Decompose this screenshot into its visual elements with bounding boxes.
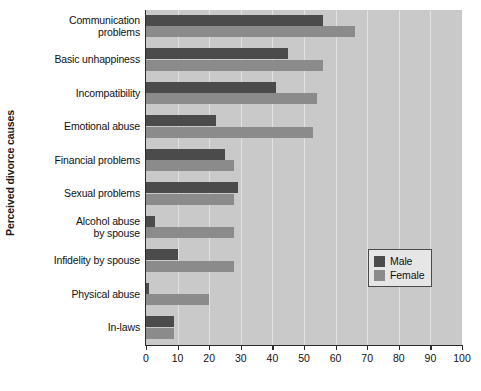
legend-item-male: Male: [374, 254, 424, 268]
x-axis-tick-label: 50: [289, 352, 319, 364]
category-label: Basic unhappiness: [20, 53, 140, 65]
bar-female: [146, 26, 355, 37]
bar-female: [146, 328, 174, 339]
bar-male: [146, 15, 323, 26]
gridline: [430, 10, 431, 345]
x-axis-tick: [209, 346, 210, 350]
x-axis-tick: [399, 346, 400, 350]
category-label: Incompatibility: [20, 87, 140, 99]
x-axis-tick: [146, 346, 147, 350]
plot-area: [146, 10, 462, 345]
x-axis-tick-label: 10: [163, 352, 193, 364]
bar-female: [146, 261, 234, 272]
gridline: [367, 10, 368, 345]
x-axis-tick-label: 0: [131, 352, 161, 364]
bar-female: [146, 227, 234, 238]
x-axis-tick-label: 40: [257, 352, 287, 364]
x-axis-tick-label: 60: [321, 352, 351, 364]
category-label: Physical abuse: [20, 288, 140, 300]
bar-male: [146, 182, 238, 193]
bar-female: [146, 93, 317, 104]
x-axis-tick: [336, 346, 337, 350]
bar-male: [146, 149, 225, 160]
x-axis-tick-label: 90: [415, 352, 445, 364]
category-label: In-laws: [20, 321, 140, 333]
x-axis-tick-label: 70: [352, 352, 382, 364]
bar-male: [146, 82, 276, 93]
category-label-list: CommunicationproblemsBasic unhappinessIn…: [20, 10, 144, 345]
category-label: Alcohol abuseby spouse: [20, 215, 140, 239]
x-axis-tick: [272, 346, 273, 350]
category-label: Financial problems: [20, 154, 140, 166]
x-axis-tick: [304, 346, 305, 350]
category-label: Emotional abuse: [20, 120, 140, 132]
bar-female: [146, 160, 234, 171]
legend-swatch-male-icon: [374, 256, 385, 267]
legend-swatch-female-icon: [374, 270, 385, 281]
x-axis-tick: [241, 346, 242, 350]
y-axis-title: Perceived divorce causes: [0, 0, 20, 345]
x-axis-tick: [462, 346, 463, 350]
bar-male: [146, 115, 216, 126]
bar-male: [146, 249, 178, 260]
gridline: [336, 10, 337, 345]
x-axis-tick: [430, 346, 431, 350]
bar-female: [146, 194, 234, 205]
category-label: Communicationproblems: [20, 14, 140, 38]
bar-male: [146, 216, 155, 227]
bar-chart: Perceived divorce causes Communicationpr…: [0, 0, 481, 391]
x-axis-tick-label: 20: [194, 352, 224, 364]
y-axis-line: [145, 10, 146, 346]
category-label: Infidelity by spouse: [20, 254, 140, 266]
category-label: Sexual problems: [20, 187, 140, 199]
bar-female: [146, 294, 209, 305]
gridline: [399, 10, 400, 345]
legend: Male Female: [368, 249, 432, 287]
y-axis-title-label: Perceived divorce causes: [4, 109, 16, 235]
legend-label-male: Male: [390, 255, 412, 267]
bar-male: [146, 283, 149, 294]
x-axis-tick-label: 80: [384, 352, 414, 364]
legend-label-female: Female: [390, 269, 424, 281]
x-axis-tick: [367, 346, 368, 350]
x-axis-tick: [178, 346, 179, 350]
legend-item-female: Female: [374, 268, 424, 282]
bar-male: [146, 316, 174, 327]
bar-male: [146, 48, 288, 59]
bar-female: [146, 127, 313, 138]
bar-female: [146, 60, 323, 71]
x-axis-tick-label: 100: [447, 352, 477, 364]
x-axis-tick-label: 30: [226, 352, 256, 364]
